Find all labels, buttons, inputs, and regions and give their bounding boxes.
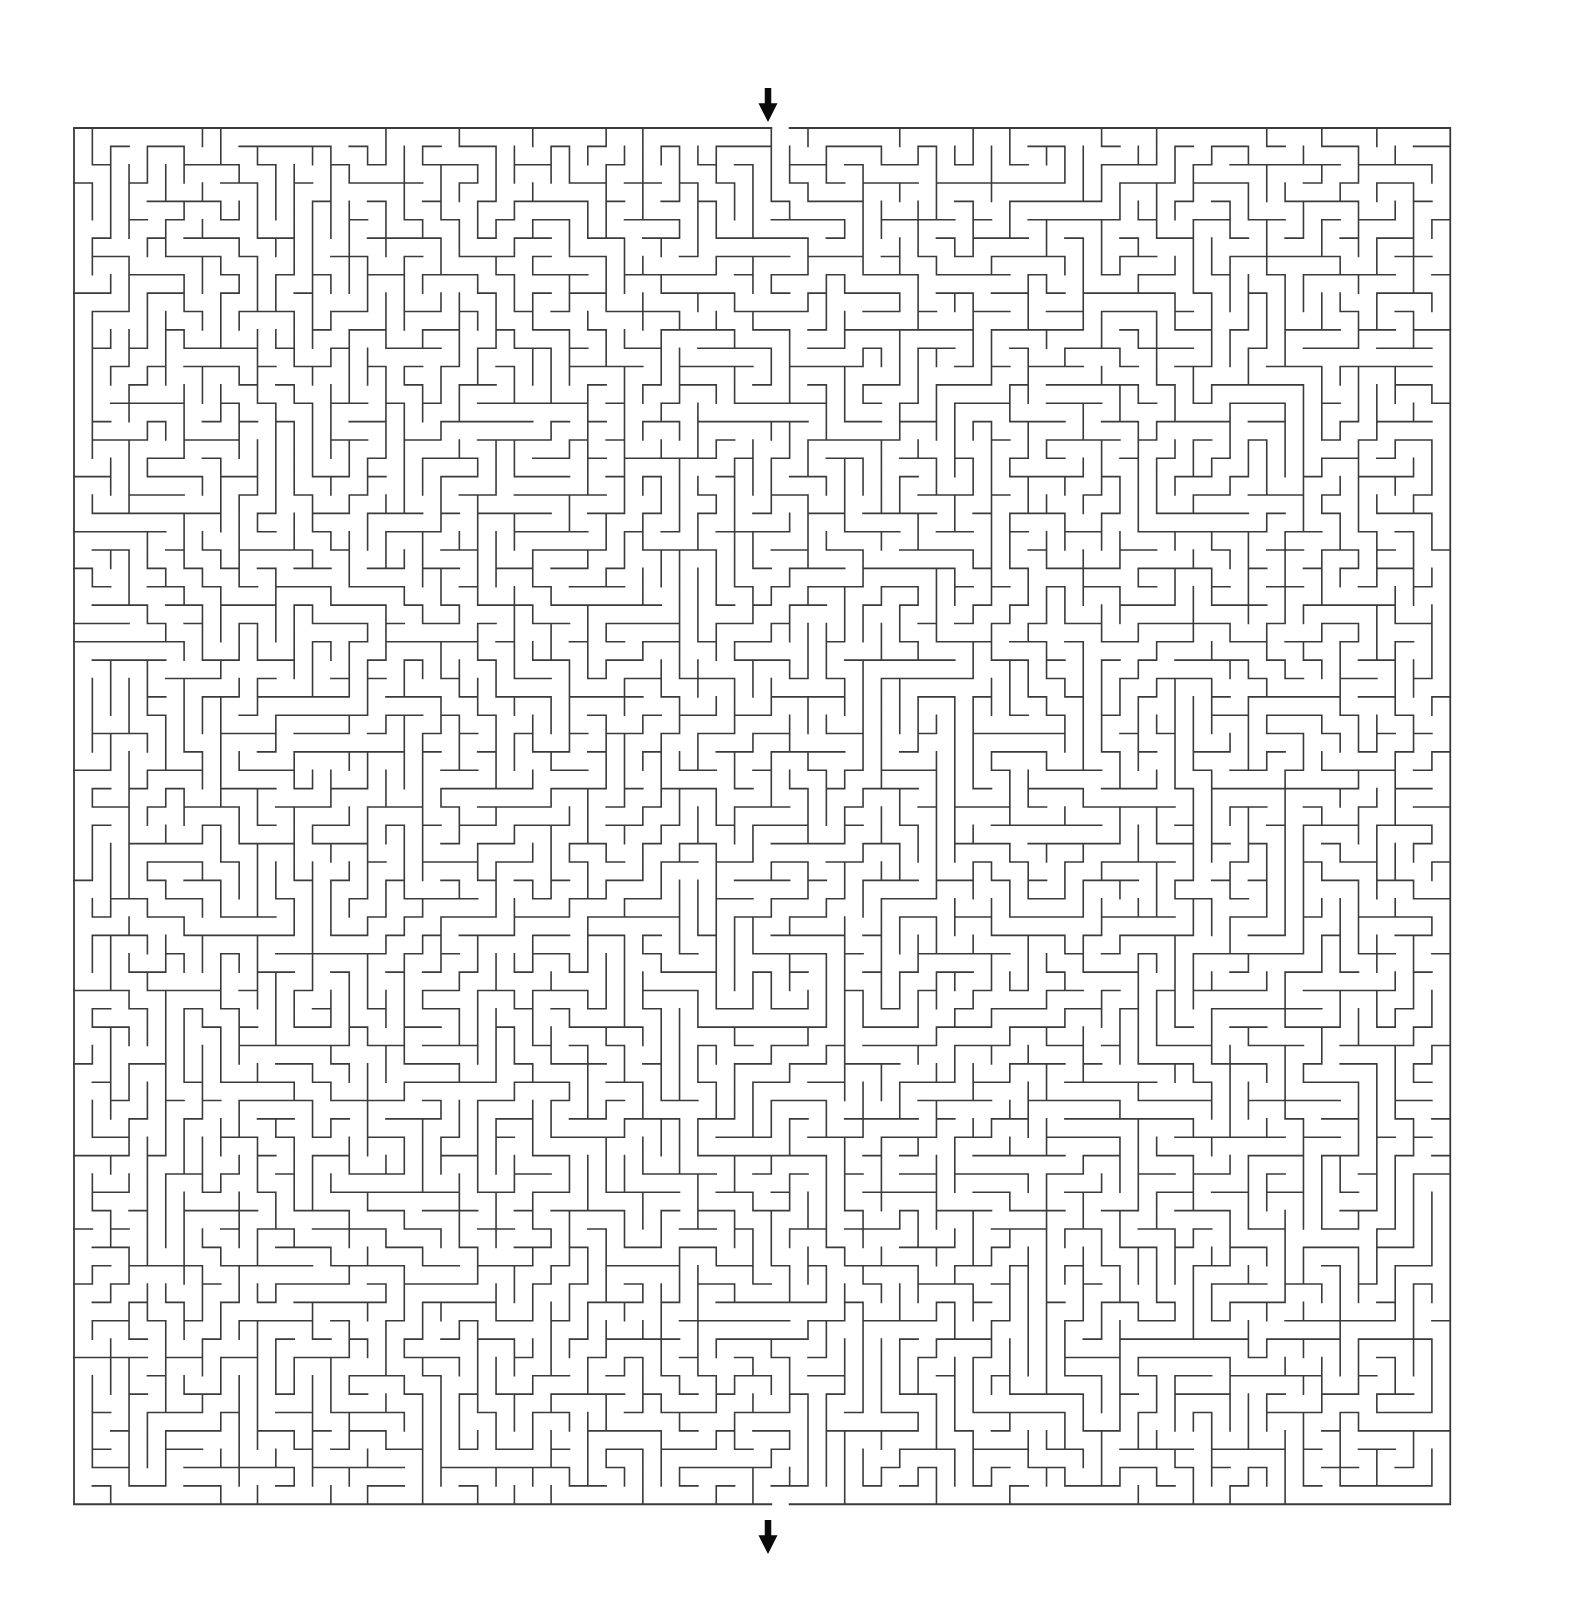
maze-page: Maze Puzzle Square grid maze bbox=[0, 0, 1572, 1615]
maze-figure bbox=[0, 0, 1572, 1615]
maze-canvas bbox=[0, 0, 1572, 1615]
